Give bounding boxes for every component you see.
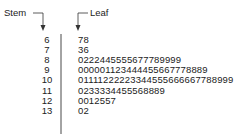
stem-header-label: Stem bbox=[4, 7, 26, 18]
leaf-values: 02 bbox=[78, 105, 89, 116]
plot-rows: 6787368022244555567778999990000011234444… bbox=[42, 34, 234, 116]
plot-row: 1302 bbox=[42, 105, 89, 116]
stem-and-leaf-plot: Stem Leaf 678736802224455556777899999000… bbox=[0, 0, 244, 140]
stem-value: 13 bbox=[42, 105, 53, 116]
stem-arrow-head-icon bbox=[41, 25, 46, 31]
leaf-arrow-head-icon bbox=[76, 25, 81, 31]
stem-annotation: Stem bbox=[4, 7, 46, 31]
leaf-header-label: Leaf bbox=[90, 7, 109, 18]
leaf-annotation: Leaf bbox=[76, 7, 109, 31]
stem-pointer-line bbox=[33, 13, 43, 27]
leaf-pointer-line bbox=[78, 13, 88, 27]
